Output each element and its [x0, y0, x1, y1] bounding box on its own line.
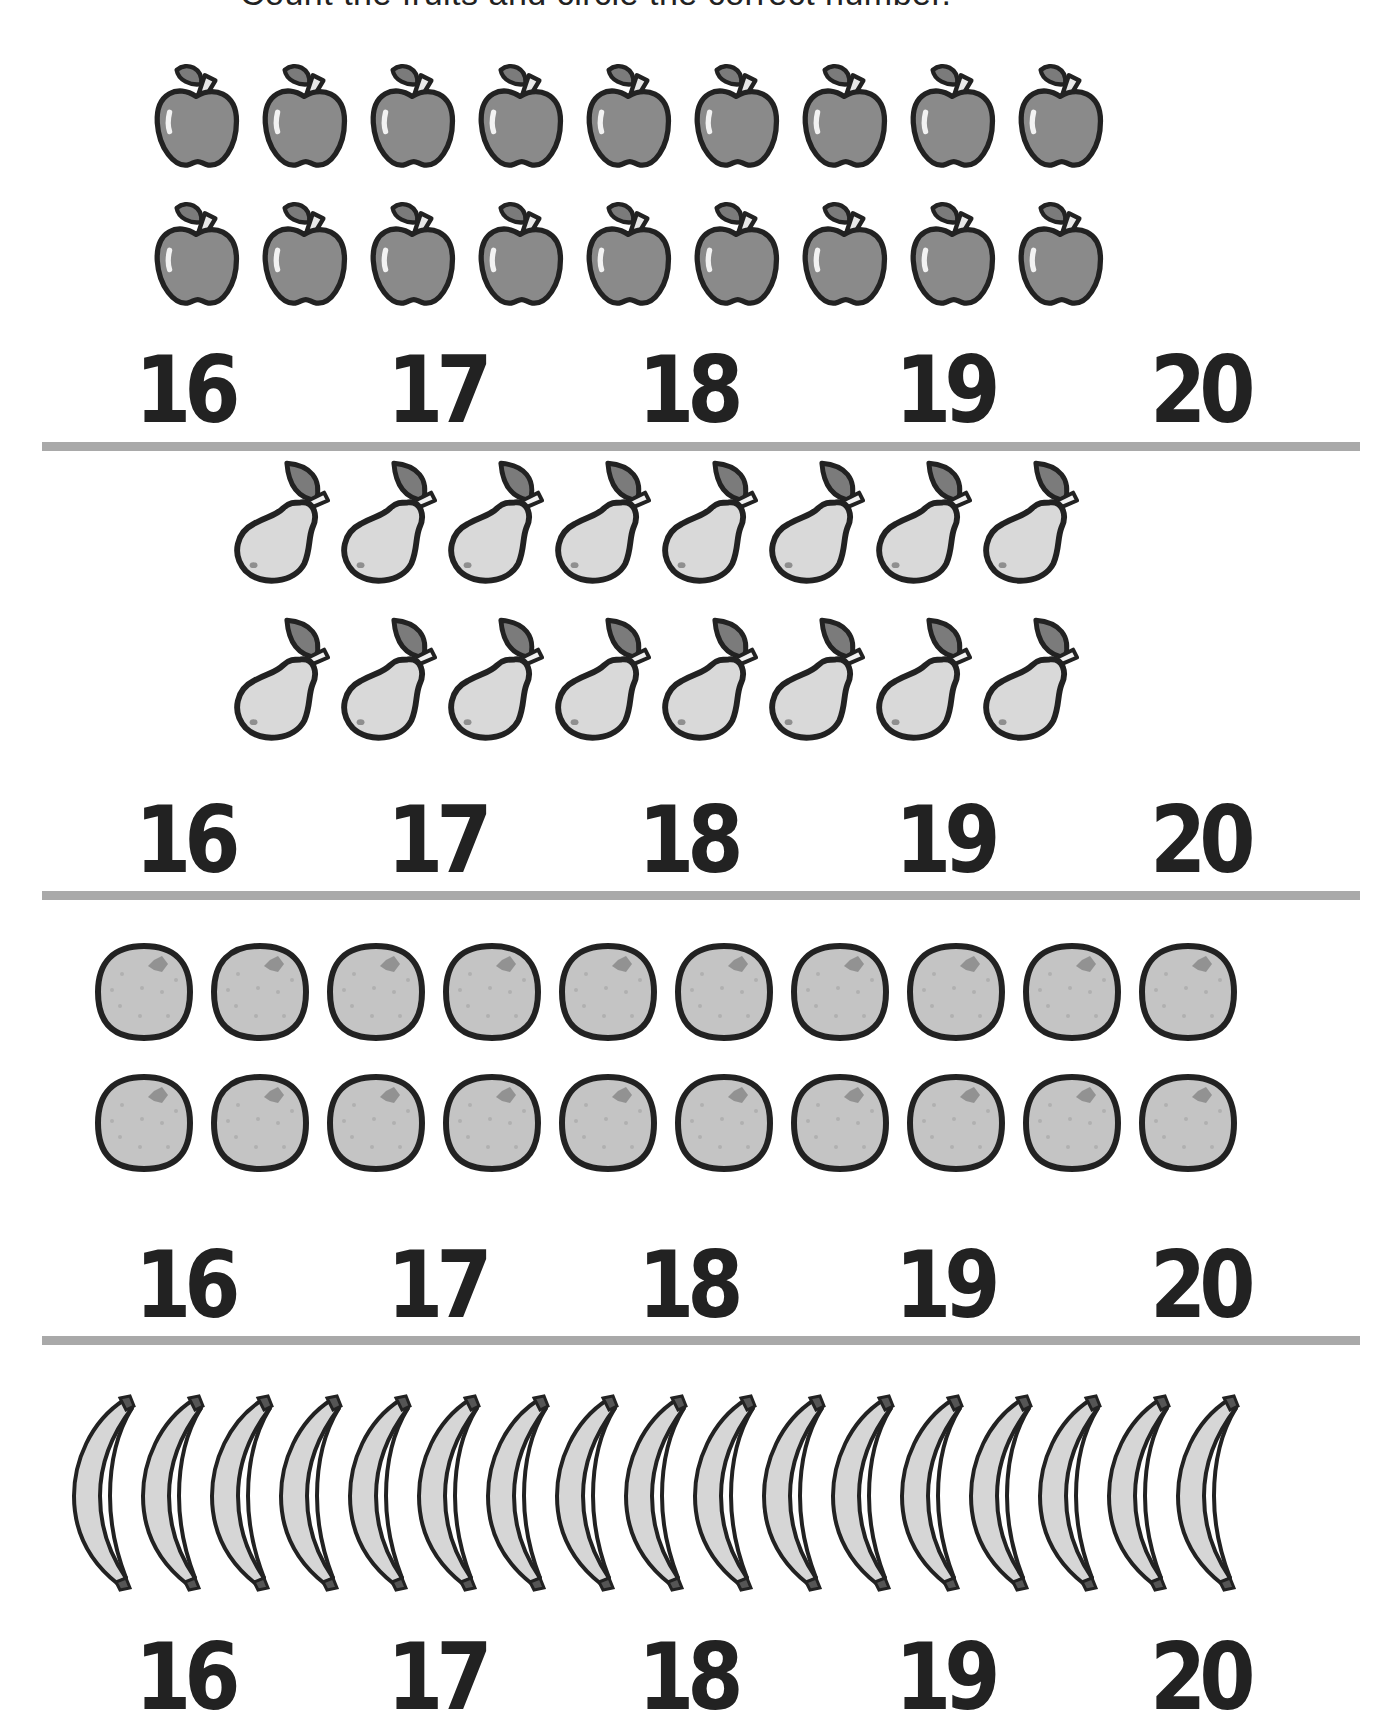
choice-17[interactable]: 17: [387, 795, 486, 887]
apple-icon: [800, 188, 888, 316]
orange-icon: [556, 1071, 660, 1175]
banana-icon: [346, 1392, 412, 1592]
orange-icon: [324, 940, 428, 1044]
pear-icon: [660, 615, 758, 747]
orange-number-choices: 16 17 18 19 20: [0, 1240, 1381, 1340]
choice-19[interactable]: 19: [895, 345, 994, 437]
banana-icon: [829, 1392, 895, 1592]
banana-icon: [70, 1392, 136, 1592]
pear-icon: [553, 458, 651, 590]
banana-icon: [1036, 1392, 1102, 1592]
section-divider: [42, 1336, 1360, 1345]
banana-icon: [553, 1392, 619, 1592]
banana-icon: [1174, 1392, 1240, 1592]
apple-icon: [476, 50, 564, 178]
pear-icon: [767, 615, 865, 747]
choice-17[interactable]: 17: [387, 345, 486, 437]
apple-icon: [476, 188, 564, 316]
choice-20[interactable]: 20: [1150, 795, 1249, 887]
banana-icon: [1105, 1392, 1171, 1592]
pear-icon: [553, 615, 651, 747]
orange-icon: [208, 940, 312, 1044]
pear-icon: [660, 458, 758, 590]
banana-icon: [139, 1392, 205, 1592]
orange-icon: [556, 940, 660, 1044]
orange-icon: [672, 1071, 776, 1175]
pear-icon: [981, 615, 1079, 747]
pear-icon: [874, 458, 972, 590]
orange-icon: [208, 1071, 312, 1175]
banana-icon: [484, 1392, 550, 1592]
choice-16[interactable]: 16: [135, 1632, 234, 1714]
orange-icon: [92, 1071, 196, 1175]
choice-17[interactable]: 17: [387, 1240, 486, 1332]
pear-icon: [232, 615, 330, 747]
pear-icon: [446, 458, 544, 590]
banana-icon: [622, 1392, 688, 1592]
apple-icon: [692, 188, 780, 316]
orange-icon: [440, 940, 544, 1044]
orange-icon: [324, 1071, 428, 1175]
apple-number-choices: 16 17 18 19 20: [0, 345, 1381, 445]
choice-18[interactable]: 18: [638, 345, 737, 437]
banana-icon: [967, 1392, 1033, 1592]
choice-20[interactable]: 20: [1150, 1240, 1249, 1332]
pear-row-1: [232, 458, 1079, 590]
pear-icon: [767, 458, 865, 590]
apple-icon: [152, 188, 240, 316]
choice-19[interactable]: 19: [895, 795, 994, 887]
apple-icon: [368, 188, 456, 316]
banana-icon: [898, 1392, 964, 1592]
banana-number-choices: 16 17 18 19 20: [0, 1632, 1381, 1714]
apple-icon: [1016, 188, 1104, 316]
apple-icon: [1016, 50, 1104, 178]
apple-icon: [908, 188, 996, 316]
orange-row-1: [92, 940, 1240, 1044]
orange-icon: [1136, 940, 1240, 1044]
choice-16[interactable]: 16: [135, 795, 234, 887]
apple-row-2: [152, 188, 1104, 316]
orange-icon: [788, 940, 892, 1044]
banana-icon: [760, 1392, 826, 1592]
orange-icon: [92, 940, 196, 1044]
choice-19[interactable]: 19: [895, 1632, 994, 1714]
orange-icon: [440, 1071, 544, 1175]
banana-icon: [691, 1392, 757, 1592]
orange-icon: [1136, 1071, 1240, 1175]
orange-icon: [904, 1071, 1008, 1175]
orange-icon: [904, 940, 1008, 1044]
banana-icon: [208, 1392, 274, 1592]
apple-icon: [800, 50, 888, 178]
apple-icon: [260, 188, 348, 316]
pear-icon: [232, 458, 330, 590]
pear-icon: [981, 458, 1079, 590]
apple-row-1: [152, 50, 1104, 178]
pear-icon: [874, 615, 972, 747]
worksheet-instructions: Count the fruits and circle the correct …: [240, 0, 1140, 13]
choice-16[interactable]: 16: [135, 1240, 234, 1332]
choice-17[interactable]: 17: [387, 1632, 486, 1714]
orange-icon: [1020, 1071, 1124, 1175]
choice-20[interactable]: 20: [1150, 1632, 1249, 1714]
pear-row-2: [232, 615, 1079, 747]
pear-icon: [339, 458, 437, 590]
choice-20[interactable]: 20: [1150, 345, 1249, 437]
orange-icon: [788, 1071, 892, 1175]
choice-18[interactable]: 18: [638, 795, 737, 887]
section-divider: [42, 891, 1360, 900]
apple-icon: [908, 50, 996, 178]
choice-18[interactable]: 18: [638, 1240, 737, 1332]
apple-icon: [584, 188, 672, 316]
apple-icon: [152, 50, 240, 178]
banana-icon: [415, 1392, 481, 1592]
choice-19[interactable]: 19: [895, 1240, 994, 1332]
pear-icon: [446, 615, 544, 747]
orange-row-2: [92, 1071, 1240, 1175]
apple-icon: [584, 50, 672, 178]
choice-18[interactable]: 18: [638, 1632, 737, 1714]
banana-row-1: [70, 1392, 1240, 1592]
choice-16[interactable]: 16: [135, 345, 234, 437]
section-divider: [42, 442, 1360, 451]
apple-icon: [692, 50, 780, 178]
orange-icon: [672, 940, 776, 1044]
